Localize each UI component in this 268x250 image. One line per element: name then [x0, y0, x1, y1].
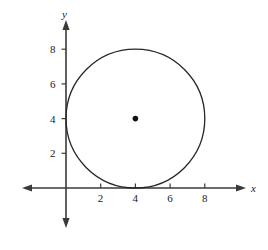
x-tick-label-4: 4	[133, 193, 139, 204]
center-point-marker	[133, 116, 139, 122]
x-tick-label-8: 8	[202, 193, 208, 204]
x-axis-right-arrowhead	[236, 184, 246, 191]
coordinate-plane-figure: 2 4 6 8 2 4 6 8 x y	[0, 0, 268, 250]
x-tick-label-6: 6	[167, 193, 173, 204]
x-tick-label-2: 2	[98, 193, 104, 204]
x-axis-left-arrowhead	[22, 184, 32, 191]
y-axis-label: y	[62, 9, 67, 20]
y-tick-label-2: 2	[50, 148, 56, 159]
y-tick-label-4: 4	[50, 114, 56, 125]
x-axis-label: x	[251, 183, 256, 194]
graph-canvas	[0, 0, 268, 250]
y-axis-down-arrowhead	[62, 218, 69, 228]
y-tick-label-6: 6	[50, 79, 56, 90]
y-tick-label-8: 8	[50, 44, 56, 55]
y-axis-up-arrowhead	[62, 20, 69, 30]
